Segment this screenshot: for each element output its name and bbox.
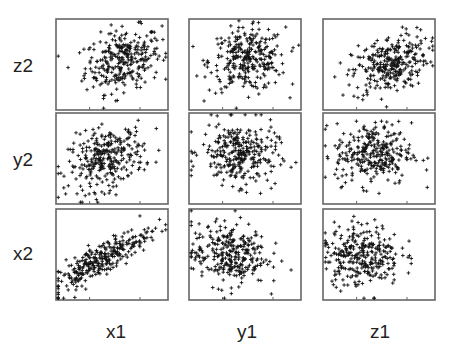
- col-label-x1: x1: [106, 321, 126, 342]
- panel-frame: [323, 113, 435, 204]
- panel-z2-vs-x1: [56, 19, 168, 110]
- col-label-y1: y1: [237, 321, 257, 342]
- col-label-z1: z1: [370, 321, 390, 342]
- row-label-x2: x2: [13, 243, 33, 264]
- panel-y2-vs-x1: [56, 113, 168, 204]
- panel-x2-vs-x1: [56, 209, 168, 300]
- panel-z2-vs-z1: [323, 19, 435, 110]
- panel-x2-vs-y1: [189, 209, 301, 300]
- scatterplot-matrix: z2 y2 x2 x1 y1 z1: [0, 0, 457, 357]
- panel-x2-vs-z1: [323, 209, 435, 300]
- row-label-z2: z2: [13, 55, 33, 76]
- panel-z2-vs-y1: [189, 19, 301, 110]
- row-label-y2: y2: [13, 149, 33, 170]
- panel-y2-vs-z1: [323, 113, 435, 204]
- panel-y2-vs-y1: [189, 113, 301, 204]
